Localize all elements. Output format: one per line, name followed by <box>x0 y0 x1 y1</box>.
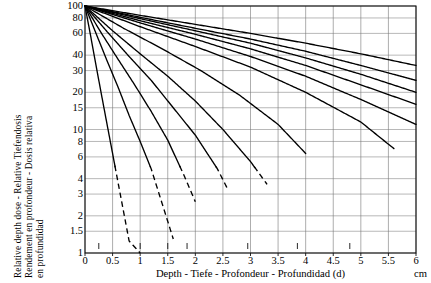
x-tick-label: 6 <box>396 255 431 266</box>
plot-canvas <box>0 0 431 283</box>
x-axis-title: Depth - Tiefe - Profondeur - Profundidad… <box>85 268 416 279</box>
x-axis-unit: cm <box>414 268 427 279</box>
dose-curve-dashed-0.04 <box>150 166 173 239</box>
dose-curve-solid-0.04 <box>85 6 150 167</box>
dose-curve-dashed-0.1 <box>254 167 267 185</box>
dose-curve-solid-0.2 <box>85 6 394 149</box>
dose-curve-dashed-0.06 <box>180 166 196 202</box>
chart-root: Relative depth dose - Relative Tiefendos… <box>0 0 431 283</box>
